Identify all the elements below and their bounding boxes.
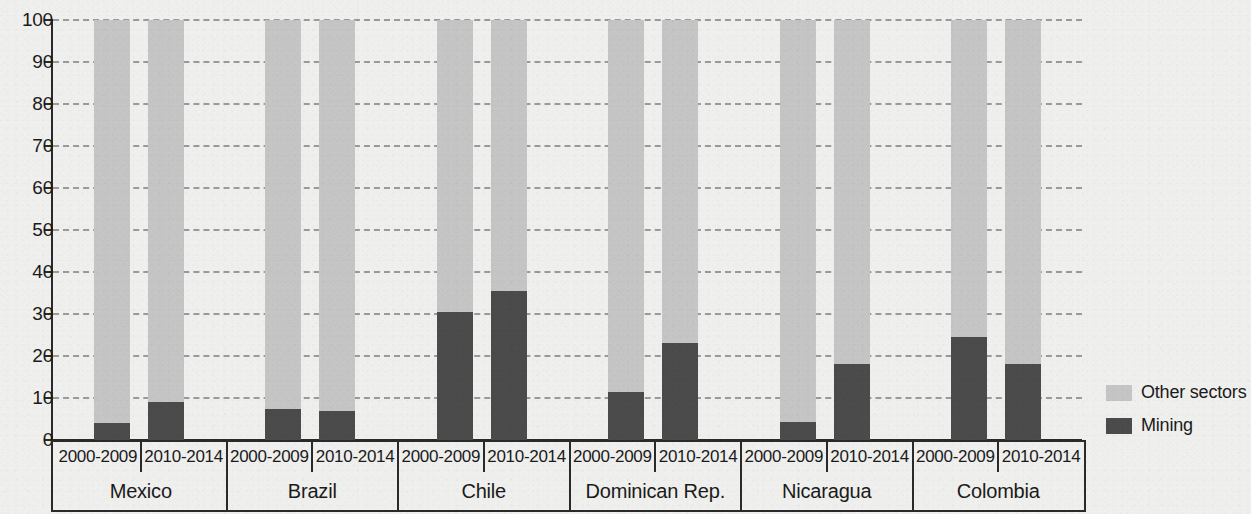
period-separator	[140, 442, 142, 472]
bar-segment-mining	[608, 392, 644, 440]
country-label-dominican-rep: Dominican Rep.	[570, 472, 742, 510]
bar-segment-other-sectors	[608, 20, 644, 440]
bar-segment-mining	[834, 364, 870, 440]
period-separator	[826, 442, 828, 472]
period-separator	[997, 442, 999, 472]
bar-stack	[319, 20, 355, 440]
bar-stack	[265, 20, 301, 440]
bar-segment-mining	[780, 422, 816, 440]
bar-segment-other-sectors	[148, 20, 184, 440]
bar-segment-mining	[437, 312, 473, 440]
period-separator	[483, 442, 485, 472]
country-label-colombia: Colombia	[913, 472, 1085, 510]
country-label-chile: Chile	[398, 472, 570, 510]
country-label-nicaragua: Nicaragua	[741, 472, 913, 510]
period-label: 2000-2009	[570, 442, 656, 472]
country-separator	[226, 442, 228, 510]
y-tick-label: 30	[17, 304, 53, 323]
y-tick-label: 100	[17, 10, 53, 29]
period-label: 2010-2014	[312, 442, 398, 472]
bar-segment-mining	[951, 337, 987, 440]
y-tick-label: 80	[17, 94, 53, 113]
bar-segment-mining	[662, 343, 698, 440]
x-axis-table: 2000-20092010-20142000-20092010-20142000…	[51, 440, 1086, 512]
chart-legend: Other sectorsMining	[1106, 382, 1246, 436]
bar-stack	[148, 20, 184, 440]
y-tick-label: 40	[17, 262, 53, 281]
legend-item: Mining	[1106, 415, 1246, 436]
period-label: 2010-2014	[655, 442, 741, 472]
bar-stack	[780, 20, 816, 440]
bar-segment-mining	[491, 291, 527, 440]
period-label: 2000-2009	[55, 442, 141, 472]
legend-label: Other sectors	[1141, 382, 1246, 403]
y-tick-label: 10	[17, 388, 53, 407]
bar-stack	[94, 20, 130, 440]
period-label: 2010-2014	[141, 442, 227, 472]
bar-segment-mining	[94, 423, 130, 440]
period-label: 2010-2014	[484, 442, 570, 472]
y-tick-label: 20	[17, 346, 53, 365]
country-label-brazil: Brazil	[227, 472, 399, 510]
mining-swatch	[1106, 418, 1132, 434]
bar-stack	[491, 20, 527, 440]
bar-segment-mining	[319, 411, 355, 440]
period-separator	[654, 442, 656, 472]
period-label: 2000-2009	[913, 442, 999, 472]
y-tick-label: 70	[17, 136, 53, 155]
bar-segment-other-sectors	[265, 20, 301, 440]
legend-label: Mining	[1141, 415, 1193, 436]
bar-segment-other-sectors	[319, 20, 355, 440]
country-separator	[397, 442, 399, 510]
y-tick-label: 0	[17, 430, 53, 449]
chart-root: 0102030405060708090100 2000-20092010-201…	[0, 0, 1251, 514]
period-label: 2000-2009	[741, 442, 827, 472]
bar-segment-mining	[265, 409, 301, 440]
y-tick-label: 90	[17, 52, 53, 71]
period-label: 2000-2009	[398, 442, 484, 472]
bar-segment-mining	[148, 402, 184, 440]
period-label: 2010-2014	[827, 442, 913, 472]
bar-stack	[437, 20, 473, 440]
bar-stack	[834, 20, 870, 440]
bar-segment-other-sectors	[94, 20, 130, 440]
plot-area	[53, 20, 1082, 440]
y-tick-label: 50	[17, 220, 53, 239]
period-label: 2000-2009	[227, 442, 313, 472]
y-tick-label: 60	[17, 178, 53, 197]
bar-stack	[951, 20, 987, 440]
bar-segment-mining	[1005, 364, 1041, 440]
bar-stack	[608, 20, 644, 440]
country-separator	[569, 442, 571, 510]
other-sectors-swatch	[1106, 385, 1132, 401]
country-separator	[912, 442, 914, 510]
bar-stack	[662, 20, 698, 440]
bar-stack	[1005, 20, 1041, 440]
period-label: 2010-2014	[998, 442, 1084, 472]
bar-segment-other-sectors	[780, 20, 816, 440]
country-label-mexico: Mexico	[55, 472, 227, 510]
period-separator	[311, 442, 313, 472]
country-separator	[740, 442, 742, 510]
legend-item: Other sectors	[1106, 382, 1246, 403]
